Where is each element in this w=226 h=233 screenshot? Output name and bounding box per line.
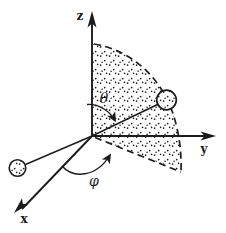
x-axis-label: x	[20, 212, 28, 226]
particle-on-arc	[157, 90, 177, 110]
particle-lower-left	[9, 160, 26, 177]
z-axis-label: z	[77, 9, 84, 23]
theta-label: θ	[100, 90, 109, 106]
x-axis-arrowhead	[14, 198, 28, 213]
diagram-canvas: z y x θ φ	[0, 0, 226, 233]
phi-label: φ	[89, 173, 99, 189]
phi-arc	[62, 155, 110, 174]
y-axis-label: y	[200, 142, 209, 156]
x-axis-line	[22, 136, 92, 209]
left-particle-line	[26, 136, 93, 165]
spherical-coordinates-figure: z y x θ φ	[0, 0, 226, 233]
